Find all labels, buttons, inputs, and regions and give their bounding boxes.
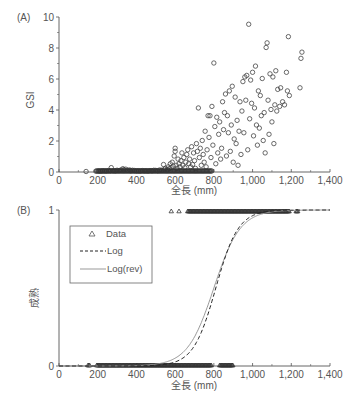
data-point <box>258 93 262 97</box>
x-tick-label: 1,200 <box>279 175 304 186</box>
data-point <box>219 146 223 150</box>
y-tick-label: 1 <box>48 205 54 216</box>
x-tick-label: 1,000 <box>240 175 265 186</box>
x-tick-label: 0 <box>56 175 62 186</box>
data-point <box>264 45 268 49</box>
data-point <box>275 109 279 113</box>
data-point-triangle <box>177 209 181 213</box>
data-point <box>250 70 254 74</box>
panel-b-maturity: (B) 成熟 02004006008001,0001,2001,40001 Da… <box>17 205 343 392</box>
x-tick-label: 400 <box>128 175 145 186</box>
gsi-data-points <box>84 22 304 174</box>
data-point <box>269 107 273 111</box>
data-point <box>241 79 245 83</box>
data-point <box>213 124 217 128</box>
data-point <box>231 160 235 164</box>
data-point <box>232 137 236 141</box>
data-point <box>185 152 189 156</box>
data-point <box>240 109 244 113</box>
y-tick-label: 10 <box>43 12 55 23</box>
x-tick-label: 400 <box>128 369 145 380</box>
x-tick-label: 1,200 <box>279 369 304 380</box>
data-point <box>256 89 260 93</box>
data-point <box>229 123 233 127</box>
data-point <box>238 100 242 104</box>
data-point <box>235 118 239 122</box>
data-point <box>218 157 222 161</box>
data-point <box>299 56 303 60</box>
data-point <box>242 131 246 135</box>
data-point <box>209 155 213 159</box>
data-point <box>277 104 281 108</box>
data-point-triangle <box>169 209 173 213</box>
data-point <box>274 69 278 73</box>
data-point <box>216 132 220 136</box>
data-point <box>247 22 251 26</box>
data-point <box>220 100 224 104</box>
data-point <box>234 141 238 145</box>
panel-b-label: (B) <box>17 205 30 216</box>
data-point <box>84 169 88 173</box>
data-point <box>212 61 216 65</box>
data-point <box>214 162 218 166</box>
y-tick-label: 0 <box>48 167 54 178</box>
data-point <box>233 95 237 99</box>
data-point <box>200 138 204 142</box>
y-tick-label: 8 <box>48 43 54 54</box>
y-tick-label: 4 <box>48 105 54 116</box>
data-point <box>194 141 198 145</box>
panel-a-gsi-scatter: (A) GSI 02004006008001,0001,2001,4000246… <box>17 12 343 197</box>
data-point <box>203 129 207 133</box>
x-tick-label: 1,400 <box>317 369 342 380</box>
data-point <box>173 146 177 150</box>
data-point <box>265 41 269 45</box>
data-point <box>257 126 261 130</box>
data-point <box>201 152 205 156</box>
x-tick-label: 600 <box>167 369 184 380</box>
legend-label-data: Data <box>106 228 127 239</box>
data-point <box>225 114 229 118</box>
data-point <box>224 154 228 158</box>
y-axis-label-maturity: 成熟 <box>28 288 40 308</box>
data-point <box>197 155 201 159</box>
data-point <box>270 120 274 124</box>
x-tick-label: 1,000 <box>240 369 265 380</box>
panel-a-label: (A) <box>17 12 30 23</box>
x-tick-label: 1,400 <box>317 175 342 186</box>
data-point <box>285 89 289 93</box>
data-point <box>226 131 230 135</box>
data-point <box>186 148 190 152</box>
data-point <box>215 115 219 119</box>
data-point <box>262 110 266 114</box>
data-point <box>253 64 257 68</box>
data-point <box>230 84 234 88</box>
data-point <box>273 103 277 107</box>
data-point <box>202 160 206 164</box>
data-point <box>286 34 290 38</box>
data-point <box>237 129 241 133</box>
data-point <box>189 145 193 149</box>
data-point <box>287 93 291 97</box>
data-point <box>207 135 211 139</box>
y-tick-label: 6 <box>48 74 54 85</box>
data-point <box>244 98 248 102</box>
data-point <box>263 151 267 155</box>
axes-a: 02004006008001,0001,2001,4000246810 <box>43 12 343 187</box>
data-point <box>217 120 221 124</box>
data-point <box>198 146 202 150</box>
data-point <box>172 154 176 158</box>
data-point <box>260 76 264 80</box>
data-point <box>187 157 191 161</box>
data-point <box>298 86 302 90</box>
y-tick-label: 2 <box>48 136 54 147</box>
data-point <box>267 132 271 136</box>
x-tick-label: 800 <box>206 369 223 380</box>
data-point <box>249 101 253 105</box>
data-point <box>205 148 209 152</box>
data-point <box>272 141 276 145</box>
data-point <box>192 158 196 162</box>
data-point <box>246 148 250 152</box>
data-point <box>261 138 265 142</box>
data-point <box>228 149 232 153</box>
data-point <box>223 92 227 96</box>
